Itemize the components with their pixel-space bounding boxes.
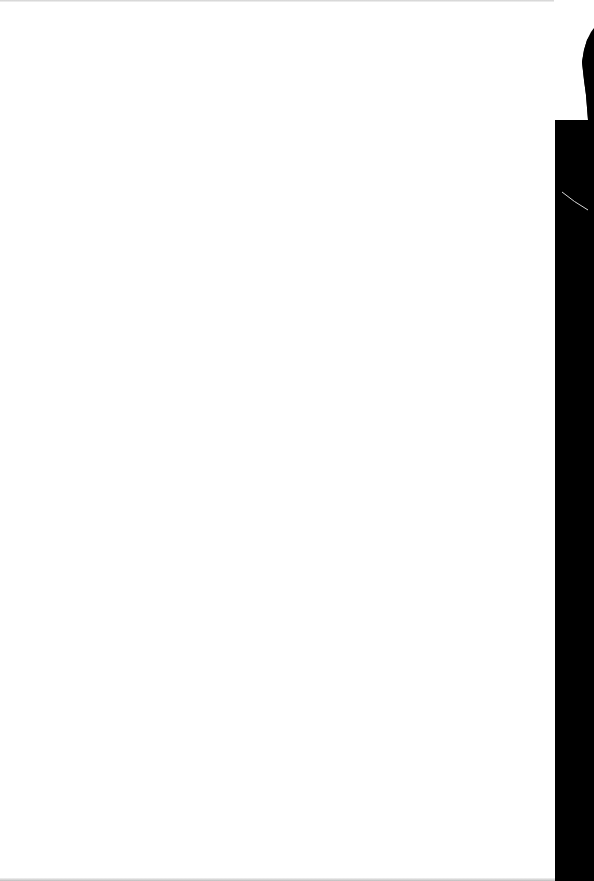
torn-paper-corner [554,0,594,120]
blank-document-page [0,0,562,881]
paper-fiber-line [562,190,594,212]
scanner-black-border [555,0,594,881]
page-top-edge [0,0,562,2]
